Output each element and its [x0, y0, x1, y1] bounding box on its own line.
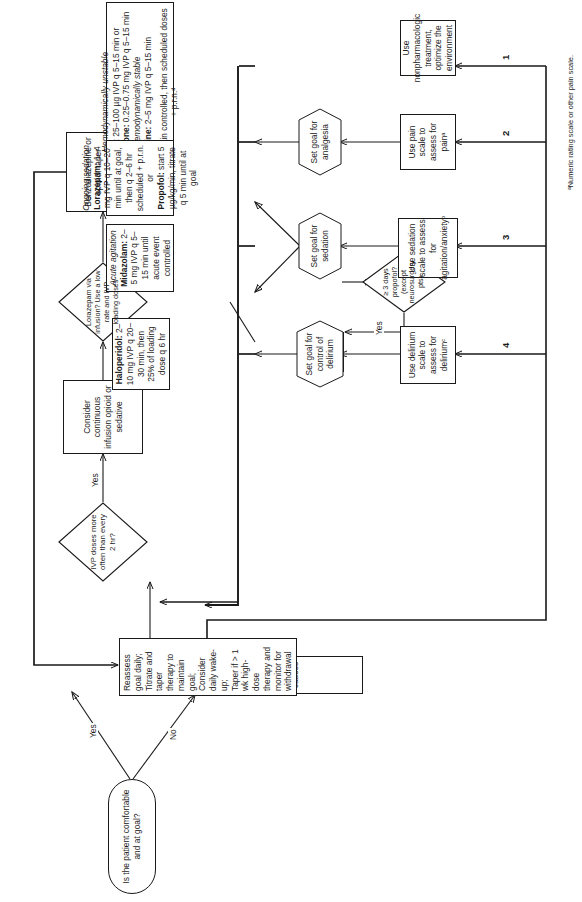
consider-infusion-label: Consider continuous infusion opioid or s… [82, 384, 125, 450]
edge-label-no-start: No [168, 728, 178, 741]
edge-label-yes-propofol: Yes [374, 320, 384, 336]
lorazepam-infusion-label: Lorazepam via infusion? Use a low rate a… [85, 265, 121, 339]
step-number-4: 4 [500, 343, 511, 348]
propofol-drug-name: Propofol: [156, 172, 166, 209]
set-goal-delirium-hex: Set goal for control of delirium [296, 320, 344, 388]
propofol-decision-label: ≥ 3 days propofol? (except neurosurgery … [382, 254, 426, 310]
set-goal-analgesia-label: Set goal for analgesia [309, 111, 331, 173]
haloperidol-line: Haloperidol: 2–10 mg IVP q 20–30 min, th… [114, 322, 168, 386]
ongoing-sedation-lorazepam-line: Lorazepam: 1–4 mg IVP q 10–20 min until … [92, 144, 157, 212]
analgesia-stable-header: Hemodynamically stable [132, 57, 143, 148]
nonpharmacologic-label: Use nonpharmacologic treatment, optimize… [401, 14, 455, 82]
fentanyl-dose: 25–100 µg IVP q 5–15 min or [111, 28, 121, 139]
ongoing-sedation-box-real: Ongoing sedation Lorazepam: 1–4 mg IVP q… [106, 140, 174, 216]
reassess-goal-label: Reassess goal daily; Titrate and taper t… [122, 643, 294, 691]
set-goal-sedation-hex: Set goal for sedation [298, 212, 342, 280]
consider-infusion-box: Consider continuous infusion opioid or s… [63, 380, 143, 454]
lorazepam-drug-name: Lorazepam: [92, 163, 102, 210]
reassess-goal-box-real: Reassess goal daily; Titrate and taper t… [119, 638, 297, 696]
start-oval: Is the patient comfortable and at goal? [108, 779, 156, 894]
edge-label-yes-start: Yes [88, 723, 98, 739]
edge-label-yes-ivp: Yes [90, 472, 100, 488]
delirium-scale-box: Use delirium scale to assess for deliriu… [400, 326, 456, 384]
pain-scale-box: Use pain scale to assess for painᵃ [400, 114, 456, 170]
step-number-3: 3 [500, 235, 511, 240]
start-oval-label: Is the patient comfortable and at goal? [121, 783, 143, 890]
pain-scale-label: Use pain scale to assess for painᵃ [407, 118, 450, 166]
ivp-frequency-decision: IVP doses more often than every 2 hr? [58, 502, 148, 582]
set-goal-analgesia-hex: Set goal for analgesia [298, 108, 342, 176]
nonpharmacologic-box: Use nonpharmacologic treatment, optimize… [400, 20, 456, 76]
flowchart-page: Is the patient comfortable and at goal? … [0, 0, 582, 902]
set-goal-sedation-label: Set goal for sedation [309, 215, 331, 277]
set-goal-delirium-label: Set goal for control of delirium [304, 323, 336, 385]
morphine-dose: 2–5 mg IVP q 5–15 min [143, 37, 153, 127]
ongoing-sedation-header: Ongoing sedation [81, 145, 92, 211]
analgesia-unstable-header: Hemodynamically unstable [100, 52, 111, 152]
flowchart-canvas: Is the patient comfortable and at goal? … [0, 0, 582, 902]
ivp-decision-label: IVP doses more often than every 2 hr? [89, 505, 118, 579]
acute-agitation-midazolam-line: Midazolam: 2–5 mg IVP q 5–15 min until a… [119, 228, 173, 288]
footnote-text: ᵃNumeric rating scale or other pain scal… [566, 55, 575, 190]
hydromorphone-dose: 0.25–0.75 mg IVP q 5–15 min [121, 12, 131, 125]
step-number-1: 1 [500, 55, 511, 60]
delirium-scale-label: Use delirium scale to assess for deliriu… [407, 330, 450, 380]
step-number-2: 2 [500, 131, 511, 136]
ongoing-sedation-propofol-line: Propofol: start 5 µg/kg/min, titrate q 5… [156, 144, 199, 212]
haloperidol-drug-name: Haloperidol: [114, 335, 124, 384]
